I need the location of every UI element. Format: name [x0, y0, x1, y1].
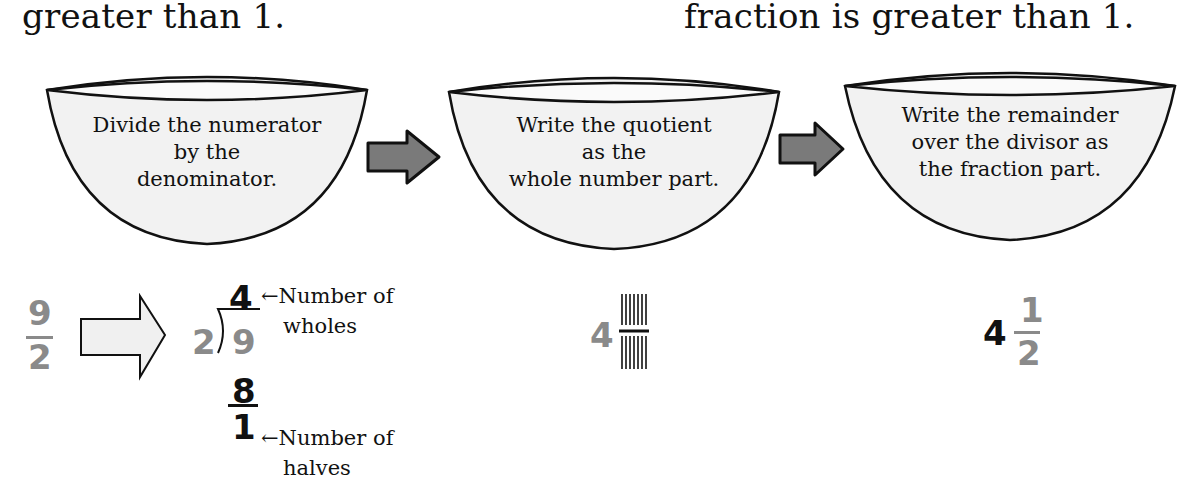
quotient-note-line-1: ←Number of [261, 283, 393, 309]
mixed-numerator-digit: 1 [1020, 292, 1044, 328]
dividend-digit: 9 [232, 324, 256, 360]
step-2-line-2: as the [454, 139, 774, 166]
step-3-line-1: Write the remainder [850, 102, 1170, 129]
mixed-denominator-digit: 2 [1017, 335, 1041, 371]
remainder-note-line-1: ←Number of [261, 425, 393, 451]
step-1-line-2: by the [52, 139, 362, 166]
right-arrow-icon [777, 120, 847, 178]
step-3-line-3: the fraction part. [850, 156, 1170, 183]
step-1-line-3: denominator. [52, 166, 362, 193]
remainder-note-line-2: halves [283, 455, 351, 481]
placeholder-fraction-icon [619, 292, 649, 372]
outline-right-arrow-icon [78, 293, 168, 381]
divisor-digit: 2 [192, 324, 216, 360]
improper-denominator: 2 [28, 339, 52, 375]
mixed-whole-digit: 4 [983, 315, 1007, 351]
header-text-right: fraction is greater than 1. [684, 0, 1135, 36]
right-arrow-icon [365, 128, 445, 186]
step-2-line-3: whole number part. [454, 166, 774, 193]
quotient-note-line-2: wholes [283, 313, 357, 339]
step-1-text: Divide the numerator by the denominator. [52, 112, 362, 193]
partial-whole-digit: 4 [590, 317, 614, 353]
step-1-line-1: Divide the numerator [52, 112, 362, 139]
step-3-text: Write the remainder over the divisor as … [850, 102, 1170, 183]
improper-numerator: 9 [28, 295, 52, 331]
remainder-digit: 1 [232, 409, 256, 445]
step-2-line-1: Write the quotient [454, 112, 774, 139]
step-3-line-2: over the divisor as [850, 129, 1170, 156]
step-2-text: Write the quotient as the whole number p… [454, 112, 774, 193]
header-text-left: greater than 1. [22, 0, 285, 36]
